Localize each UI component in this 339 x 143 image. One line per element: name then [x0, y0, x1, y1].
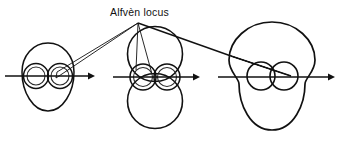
leader-to-left-panel-alt [56, 23, 138, 78]
leader-to-middle-panel-left-lobe [136, 23, 138, 70]
alfven-locus-figure: Alfvèn locus [0, 0, 339, 143]
right-outer-locus [229, 22, 315, 130]
leader-right-panel-spine [231, 56, 291, 76]
right-panel [218, 22, 335, 130]
alfven-locus-label: Alfvèn locus [110, 6, 169, 18]
left-axis-arrowhead-icon [88, 73, 95, 80]
leader-to-left-panel [57, 23, 138, 72]
figure-canvas: Alfvèn locus [0, 0, 339, 143]
leader-to-right-panel-upper [138, 23, 231, 56]
middle-panel [113, 27, 200, 129]
right-axis-arrowhead-icon [328, 74, 335, 81]
alfven-locus-label-group: Alfvèn locus [56, 6, 291, 78]
left-panel [5, 43, 95, 111]
leader-to-middle-panel-right-lobe [138, 23, 152, 74]
middle-axis-arrowhead-icon [193, 74, 200, 81]
